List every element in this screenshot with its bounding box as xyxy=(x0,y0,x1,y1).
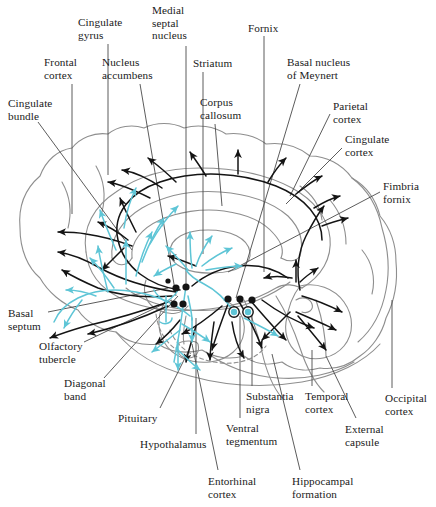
label-ventral-tegmentum: Ventral tegmentum xyxy=(226,422,277,447)
label-external-capsule: External capsule xyxy=(345,423,384,448)
dopaminergic-nucleus-substantia-nigra-core xyxy=(231,309,237,315)
label-substantia-nigra: Substantia nigra xyxy=(246,390,294,415)
cell-body-dot-medial-septal-1 xyxy=(172,284,179,291)
cell-body-dot-medial-septal-3 xyxy=(165,278,170,283)
label-fornix: Fornix xyxy=(248,22,278,35)
fimbria-branch-right xyxy=(302,296,342,312)
meynert-projection-4 xyxy=(212,304,228,350)
frontal-projection-6 xyxy=(102,248,124,270)
cingulate-bundle-branch-d xyxy=(190,152,206,176)
tegmental-arrow-1 xyxy=(210,322,214,360)
cell-body-dot-meynert-2 xyxy=(236,295,243,302)
label-medial-septal-nucleus: Medial septal nucleus xyxy=(152,4,187,42)
leader-fimbria-fornix xyxy=(228,192,380,272)
cingulate-bundle-branch-g xyxy=(296,176,322,194)
small-loop-right xyxy=(296,298,312,313)
label-cingulate-cortex: Cingulate cortex xyxy=(345,133,389,158)
label-frontal-cortex: Frontal cortex xyxy=(44,56,77,81)
cell-body-dot-diagonal-band-1 xyxy=(170,300,177,307)
cell-body-dot-medial-septal-2 xyxy=(182,283,189,290)
label-hippocampal-formation: Hippocampal formation xyxy=(292,475,353,500)
pontine-arrow-1 xyxy=(264,277,292,279)
label-cingulate-gyrus: Cingulate gyrus xyxy=(78,16,122,41)
label-hypothalamus: Hypothalamus xyxy=(140,438,206,451)
corpus-callosum-splenium xyxy=(281,256,300,261)
label-olfactory-tubercle: Olfactory tubercle xyxy=(39,340,83,365)
label-fimbria-fornix: Fimbria fornix xyxy=(383,180,419,205)
dopaminergic-nucleus-ventral-tegmentum-core xyxy=(245,309,251,315)
label-temporal-cortex: Temporal cortex xyxy=(305,390,349,415)
label-corpus-callosum: Corpus callosum xyxy=(200,96,241,121)
frontal-projection-1 xyxy=(58,252,176,292)
cingulate-gyrus-outline-lower xyxy=(86,252,302,311)
nigrostriatal-fan-2 xyxy=(196,236,212,266)
pituitary-outline xyxy=(183,316,186,344)
brain-pathway-figure: Cingulate gyrus Medial septal nucleus Fo… xyxy=(0,0,436,507)
label-nucleus-accumbens: Nucleus accumbens xyxy=(102,56,153,81)
label-entorhinal-cortex: Entorhinal cortex xyxy=(208,475,256,500)
frontal-projection-7 xyxy=(120,198,136,232)
cell-body-markers-group xyxy=(165,278,255,317)
label-occipital-cortex: Occipital cortex xyxy=(385,392,427,417)
label-pituitary: Pituitary xyxy=(118,412,157,425)
cingulate-bundle-branch-h xyxy=(314,196,340,208)
leader-diagonal-band xyxy=(104,296,178,378)
leader-nucleus-accumbens xyxy=(140,84,176,296)
cell-body-dot-diagonal-band-2 xyxy=(179,300,186,307)
occipital-sulcus xyxy=(362,250,374,294)
fimbria-fornix-pathway xyxy=(298,206,324,290)
mesocortical-branch-10 xyxy=(124,188,136,228)
label-striatum: Striatum xyxy=(193,57,232,70)
label-basal-septum: Basal septum xyxy=(8,307,41,332)
cholinergic-pathways-group xyxy=(50,150,348,362)
nigrostriatal-fan-4 xyxy=(202,248,232,266)
label-diagonal-band: Diagonal band xyxy=(64,377,106,402)
cell-body-dot-meynert-1 xyxy=(224,295,231,302)
mesocortical-branch-6 xyxy=(136,232,152,276)
nigrostriatal-fan-1 xyxy=(190,232,192,268)
cerebral-cortex-outline xyxy=(20,124,397,371)
label-cingulate-bundle: Cingulate bundle xyxy=(8,97,52,122)
leader-cingulate-bundle xyxy=(38,122,132,250)
cell-body-dot-meynert-3 xyxy=(248,296,255,303)
pontine-arrow-3 xyxy=(300,268,318,282)
label-basal-nucleus-of-meynert: Basal nucleus of Meynert xyxy=(287,56,350,81)
leader-corpus-callosum xyxy=(215,124,222,206)
fornix-route xyxy=(192,266,288,287)
label-parietal-cortex: Parietal cortex xyxy=(333,100,368,125)
frontal-sulcus-1 xyxy=(62,182,70,228)
